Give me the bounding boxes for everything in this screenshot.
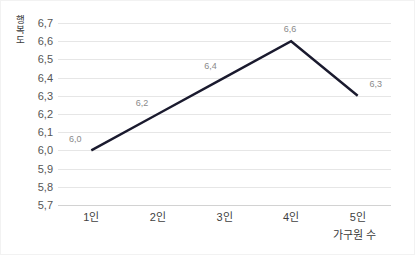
y-tick-label: 5,7 bbox=[7, 199, 53, 211]
line-chart: 행복도 6,76,66,56,46,36,26,16,05,95,85,7 1인… bbox=[0, 0, 415, 255]
y-tick-label: 6,7 bbox=[7, 17, 53, 29]
data-point-label: 6,0 bbox=[69, 134, 82, 144]
gridline bbox=[58, 114, 391, 115]
gridline bbox=[58, 59, 391, 60]
x-tick-label: 3인 bbox=[216, 208, 232, 224]
data-point-label: 6,6 bbox=[284, 24, 297, 34]
gridline bbox=[58, 78, 391, 79]
x-tick-label: 2인 bbox=[150, 208, 166, 224]
gridline bbox=[58, 150, 391, 151]
plot-area bbox=[58, 23, 391, 205]
gridline bbox=[58, 41, 391, 42]
data-point-label: 6,2 bbox=[136, 98, 149, 108]
gridline bbox=[58, 132, 391, 133]
gridline bbox=[58, 23, 391, 24]
data-point-label: 6,4 bbox=[204, 61, 217, 71]
x-axis-line bbox=[58, 205, 391, 206]
y-tick-label: 6,4 bbox=[7, 72, 53, 84]
x-axis-tick-labels: 1인2인3인4인5인 bbox=[58, 208, 391, 226]
gridline bbox=[58, 187, 391, 188]
y-tick-label: 6,3 bbox=[7, 90, 53, 102]
y-tick-label: 5,9 bbox=[7, 163, 53, 175]
y-tick-label: 6,0 bbox=[7, 144, 53, 156]
gridline bbox=[58, 96, 391, 97]
x-tick-label: 5인 bbox=[350, 208, 366, 224]
data-point-label: 6,3 bbox=[369, 79, 382, 89]
y-axis-tick-labels: 6,76,66,56,46,36,26,16,05,95,85,7 bbox=[1, 1, 53, 255]
x-axis-title: 가구원 수 bbox=[333, 226, 376, 242]
y-tick-label: 6,6 bbox=[7, 35, 53, 47]
y-tick-label: 6,5 bbox=[7, 53, 53, 65]
y-tick-label: 6,1 bbox=[7, 126, 53, 138]
gridline bbox=[58, 169, 391, 170]
y-tick-label: 6,2 bbox=[7, 108, 53, 120]
x-tick-label: 4인 bbox=[283, 208, 299, 224]
x-tick-label: 1인 bbox=[83, 208, 99, 224]
y-tick-label: 5,8 bbox=[7, 181, 53, 193]
